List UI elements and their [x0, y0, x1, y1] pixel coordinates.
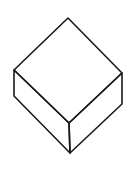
left-face [14, 70, 70, 153]
right-face [69, 73, 122, 153]
isometric-box-drawing [0, 0, 133, 170]
top-face [14, 18, 122, 123]
diagram-canvas [0, 0, 133, 170]
